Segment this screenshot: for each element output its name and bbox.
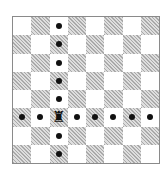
move-marker-dot — [74, 114, 80, 120]
square-e7 — [86, 35, 104, 53]
move-marker-dot — [56, 78, 62, 84]
move-marker-dot — [147, 114, 153, 120]
square-a6 — [13, 54, 31, 72]
square-e3 — [86, 108, 104, 126]
square-g4 — [123, 90, 141, 108]
square-f4 — [104, 90, 122, 108]
square-e2 — [86, 127, 104, 145]
square-h7 — [141, 35, 159, 53]
square-f8 — [104, 17, 122, 35]
square-h2 — [141, 127, 159, 145]
square-d7 — [68, 35, 86, 53]
square-c5 — [50, 72, 68, 90]
square-h3 — [141, 108, 159, 126]
square-c6 — [50, 54, 68, 72]
square-a8 — [13, 17, 31, 35]
square-b3 — [31, 108, 49, 126]
square-h4 — [141, 90, 159, 108]
square-b7 — [31, 35, 49, 53]
move-marker-dot — [129, 114, 135, 120]
move-marker-dot — [19, 114, 25, 120]
chess-board: ♜ — [12, 16, 160, 164]
square-h6 — [141, 54, 159, 72]
square-c3: ♜ — [50, 108, 68, 126]
square-c7 — [50, 35, 68, 53]
square-a1 — [13, 145, 31, 163]
square-d4 — [68, 90, 86, 108]
square-d2 — [68, 127, 86, 145]
square-d1 — [68, 145, 86, 163]
move-marker-dot — [56, 151, 62, 157]
rook-icon: ♜ — [52, 110, 65, 125]
square-a5 — [13, 72, 31, 90]
square-g6 — [123, 54, 141, 72]
square-e1 — [86, 145, 104, 163]
square-d8 — [68, 17, 86, 35]
square-b2 — [31, 127, 49, 145]
move-marker-dot — [110, 114, 116, 120]
square-b4 — [31, 90, 49, 108]
square-c4 — [50, 90, 68, 108]
square-d5 — [68, 72, 86, 90]
square-d3 — [68, 108, 86, 126]
square-a7 — [13, 35, 31, 53]
move-marker-dot — [92, 114, 98, 120]
square-f3 — [104, 108, 122, 126]
square-e6 — [86, 54, 104, 72]
square-h1 — [141, 145, 159, 163]
square-f6 — [104, 54, 122, 72]
square-f5 — [104, 72, 122, 90]
square-b8 — [31, 17, 49, 35]
square-g1 — [123, 145, 141, 163]
square-g5 — [123, 72, 141, 90]
square-e4 — [86, 90, 104, 108]
move-marker-dot — [56, 60, 62, 66]
square-c2 — [50, 127, 68, 145]
square-e5 — [86, 72, 104, 90]
square-g7 — [123, 35, 141, 53]
square-c8 — [50, 17, 68, 35]
move-marker-dot — [56, 23, 62, 29]
square-c1 — [50, 145, 68, 163]
square-g3 — [123, 108, 141, 126]
square-a3 — [13, 108, 31, 126]
move-marker-dot — [56, 41, 62, 47]
move-marker-dot — [56, 133, 62, 139]
square-f1 — [104, 145, 122, 163]
square-h8 — [141, 17, 159, 35]
square-g8 — [123, 17, 141, 35]
square-b6 — [31, 54, 49, 72]
move-marker-dot — [56, 96, 62, 102]
move-marker-dot — [37, 114, 43, 120]
square-d6 — [68, 54, 86, 72]
square-a2 — [13, 127, 31, 145]
square-f2 — [104, 127, 122, 145]
square-b1 — [31, 145, 49, 163]
square-h5 — [141, 72, 159, 90]
square-g2 — [123, 127, 141, 145]
square-b5 — [31, 72, 49, 90]
square-a4 — [13, 90, 31, 108]
square-f7 — [104, 35, 122, 53]
square-e8 — [86, 17, 104, 35]
